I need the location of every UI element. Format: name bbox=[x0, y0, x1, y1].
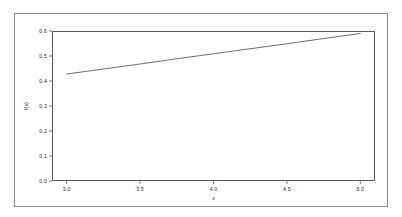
x-tick-label: 3.5 bbox=[136, 186, 144, 192]
figure-canvas: 3.03.54.04.55.00.00.10.20.30.40.50.6 x f… bbox=[0, 0, 402, 217]
x-tick-label: 5.0 bbox=[356, 186, 364, 192]
y-tick-label: 0.0 bbox=[29, 178, 47, 184]
plot-svg bbox=[0, 0, 402, 217]
data-series-group bbox=[67, 34, 361, 75]
x-tick-label: 3.0 bbox=[63, 186, 71, 192]
x-tick-label: 4.5 bbox=[283, 186, 291, 192]
y-tick-label: 0.6 bbox=[29, 28, 47, 34]
tick-marks-group bbox=[49, 31, 360, 184]
data-series-line bbox=[67, 34, 361, 75]
y-tick-label: 0.3 bbox=[29, 103, 47, 109]
x-tick-label: 4.0 bbox=[210, 186, 218, 192]
x-axis-label: x bbox=[212, 195, 215, 201]
y-tick-label: 0.4 bbox=[29, 78, 47, 84]
y-tick-label: 0.5 bbox=[29, 53, 47, 59]
y-tick-label: 0.2 bbox=[29, 128, 47, 134]
y-tick-label: 0.1 bbox=[29, 153, 47, 159]
y-axis-label: f(x) bbox=[23, 102, 29, 110]
